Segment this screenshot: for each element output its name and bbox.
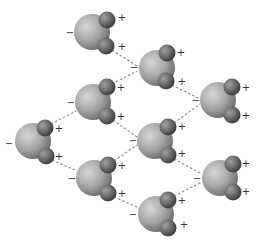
- hydrogen-atom: [158, 73, 175, 90]
- hydrogen-bond-line: [114, 145, 137, 161]
- water-molecule-m6: −++: [129, 119, 186, 164]
- positive-charge-label: +: [242, 82, 250, 93]
- positive-charge-label: +: [178, 195, 186, 206]
- negative-charge-label: −: [5, 138, 13, 149]
- hydrogen-atom: [160, 147, 177, 164]
- hydrogen-atom: [225, 184, 242, 201]
- hydrogen-atom: [224, 79, 241, 96]
- positive-charge-label: +: [180, 219, 188, 230]
- water-molecule-m2: −++: [130, 45, 186, 90]
- negative-charge-label: −: [129, 135, 137, 146]
- positive-charge-label: +: [242, 110, 250, 121]
- hydrogen-bond-line: [174, 159, 202, 174]
- hydrogen-atom: [100, 157, 117, 174]
- hydrogen-atom: [99, 108, 116, 125]
- hydrogen-atom: [160, 192, 177, 209]
- water-molecule-m4: −++: [67, 79, 125, 125]
- hydrogen-atom: [38, 148, 55, 165]
- positive-charge-label: +: [55, 123, 63, 134]
- hydrogen-atom: [99, 79, 116, 96]
- positive-charge-label: +: [118, 160, 126, 171]
- negative-charge-label: −: [66, 27, 74, 38]
- positive-charge-label: +: [178, 148, 186, 159]
- hydrogen-atom: [160, 119, 177, 136]
- positive-charge-label: +: [118, 188, 126, 199]
- positive-charge-label: +: [117, 82, 125, 93]
- positive-charge-label: +: [118, 41, 126, 52]
- water-molecule-m8: −++: [193, 156, 250, 201]
- positive-charge-label: +: [117, 111, 125, 122]
- positive-charge-label: +: [178, 121, 186, 132]
- water-hydrogen-bond-diagram: −++−++−++−++−++−++−++−++−++: [0, 0, 256, 245]
- negative-charge-label: −: [192, 95, 200, 106]
- negative-charge-label: −: [130, 62, 138, 73]
- positive-charge-label: +: [177, 47, 185, 58]
- hydrogen-atom: [99, 12, 116, 29]
- positive-charge-label: +: [55, 151, 63, 162]
- water-molecule-m1: −++: [66, 12, 126, 55]
- hydrogen-atom: [224, 107, 241, 124]
- water-molecule-m9: −++: [129, 192, 188, 237]
- negative-charge-label: −: [193, 173, 201, 184]
- hydrogen-atom: [160, 220, 177, 237]
- negative-charge-label: −: [129, 209, 137, 220]
- positive-charge-label: +: [242, 158, 250, 169]
- hydrogen-atom: [159, 45, 176, 62]
- negative-charge-label: −: [67, 97, 75, 108]
- positive-charge-label: +: [178, 76, 186, 87]
- water-molecule-m5: −++: [5, 120, 63, 165]
- positive-charge-label: +: [118, 12, 126, 23]
- hydrogen-bond-line: [174, 182, 202, 196]
- hydrogen-atom: [100, 185, 117, 202]
- positive-charge-label: +: [242, 186, 250, 197]
- water-molecule-m3: −++: [192, 79, 250, 124]
- water-molecule-m7: −++: [68, 157, 126, 202]
- hydrogen-atom: [225, 156, 242, 173]
- negative-charge-label: −: [68, 173, 76, 184]
- hydrogen-atom: [37, 120, 54, 137]
- hydrogen-atom: [98, 38, 115, 55]
